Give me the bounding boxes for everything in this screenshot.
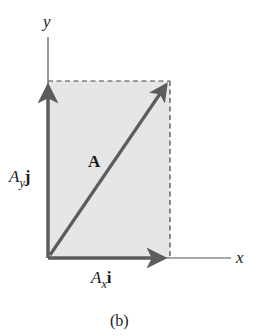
ay-main: A [8, 167, 20, 186]
vector-ay-j-label: Ayj [8, 167, 30, 190]
vector-ax-i-label: Axi [90, 268, 112, 291]
y-axis-label: y [41, 12, 51, 31]
vector-a-label: A [88, 152, 101, 171]
ay-unit: j [24, 167, 31, 186]
ax-main: A [90, 268, 102, 287]
figure-caption: (b) [110, 312, 129, 330]
ax-unit: i [107, 268, 112, 287]
x-axis-label: x [235, 248, 244, 267]
vector-components-diagram: y x A Ayj Axi (b) [0, 0, 258, 336]
